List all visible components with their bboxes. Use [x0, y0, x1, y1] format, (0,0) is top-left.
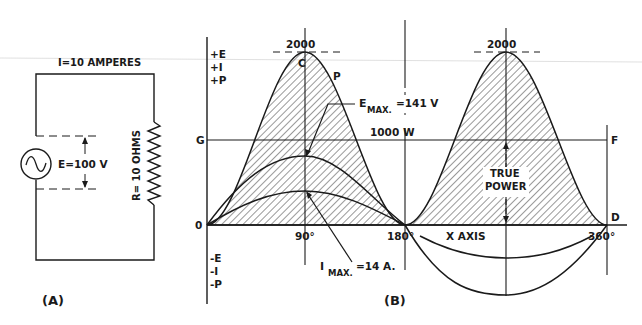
tick-90: 90°	[295, 230, 315, 242]
tick-180: 180°	[387, 230, 414, 242]
wire-top	[36, 74, 154, 136]
f-label: F	[611, 134, 618, 146]
p-label: P	[333, 70, 341, 82]
d-label: D	[611, 211, 620, 223]
svg-text:=14 A.: =14 A.	[356, 260, 395, 272]
svg-text:MAX.: MAX.	[367, 105, 392, 115]
c-label: C	[298, 57, 306, 69]
minus-p-label: -P	[210, 278, 222, 290]
resistor-zigzag-icon	[148, 122, 160, 205]
plus-p-label: +P	[210, 74, 227, 86]
avg-power-label: 1000 W	[370, 126, 415, 138]
svg-text:=141 V: =141 V	[396, 97, 439, 109]
x-axis-label: X AXIS	[446, 230, 485, 242]
true-power-label-line2: POWER	[485, 181, 527, 192]
power-curve	[207, 52, 607, 225]
peak-label-1: 2000	[286, 38, 315, 50]
tick-360: 360°	[588, 230, 615, 242]
minus-i-label: -I	[210, 265, 218, 277]
plus-i-label: +I	[210, 61, 223, 73]
svg-text:MAX.: MAX.	[328, 268, 353, 278]
arrow-up-icon	[82, 137, 88, 144]
current-label: I=10 AMPERES	[58, 57, 141, 68]
g-label: G	[196, 134, 205, 146]
resistance-label: R= 10 OHMS	[131, 130, 142, 201]
ac-source-icon	[21, 149, 51, 179]
circuit-diagram: I=10 AMPERES E=100 V R= 10 OHMS (A)	[21, 57, 160, 308]
imax-label: I MAX. =14 A.	[320, 260, 395, 278]
diagram-canvas: I=10 AMPERES E=100 V R= 10 OHMS (A)	[0, 0, 642, 325]
voltage-label: E=100 V	[58, 158, 109, 170]
true-power-label-line1: TRUE	[490, 168, 520, 179]
waveform-graph: +E +I +P -E -I -P 0 G F D C P 2000 2000 …	[195, 20, 627, 308]
svg-text:I: I	[320, 260, 324, 273]
svg-text:E: E	[359, 97, 367, 110]
minus-e-label: -E	[210, 252, 222, 264]
peak-label-2: 2000	[487, 38, 516, 50]
plus-e-label: +E	[210, 48, 226, 60]
panel-a-label: (A)	[42, 293, 64, 308]
arrow-down-icon	[82, 181, 88, 188]
emax-label: E MAX. =141 V	[358, 95, 439, 115]
panel-b-label: (B)	[384, 293, 406, 308]
origin-label: 0	[195, 219, 202, 231]
